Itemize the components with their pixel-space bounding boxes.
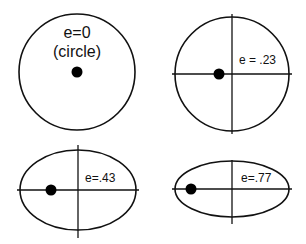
panel-ellipse-77: e=.77 xyxy=(172,160,292,224)
eccentricity-label: e = .23 xyxy=(239,53,276,67)
eccentricity-label: e=0 xyxy=(63,24,90,41)
focus-dot xyxy=(46,185,57,196)
eccentricity-label: e=.77 xyxy=(241,171,272,185)
eccentricity-diagram: e=0 (circle) e = .23 e=.43 e=.77 xyxy=(0,0,306,244)
focus-dot xyxy=(72,67,83,78)
focus-dot xyxy=(214,69,225,80)
focus-dot xyxy=(186,184,197,195)
eccentricity-label: e=.43 xyxy=(85,171,116,185)
panel-ellipse-43: e=.43 xyxy=(17,145,139,238)
panel-circle: e=0 (circle) xyxy=(19,14,135,130)
shape-label: (circle) xyxy=(53,43,101,60)
panel-ellipse-23: e = .23 xyxy=(172,14,292,134)
